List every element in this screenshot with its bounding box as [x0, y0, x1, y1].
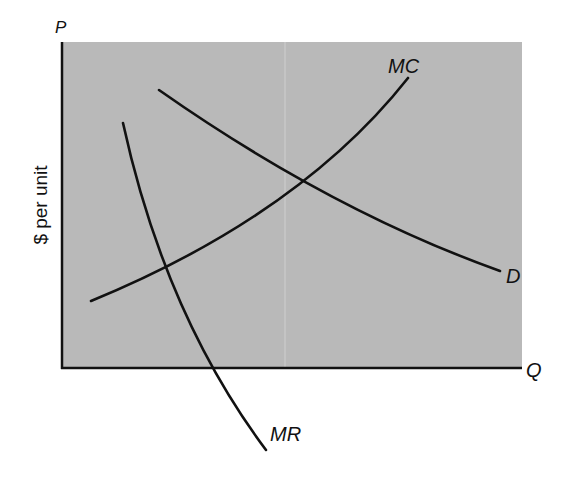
monopoly-chart: P Q $ per unit MC D MR	[0, 0, 570, 477]
mc-label: MC	[388, 55, 420, 77]
mr-label: MR	[270, 423, 301, 445]
q-axis-symbol: Q	[526, 359, 542, 381]
p-axis-symbol: P	[55, 18, 67, 37]
plot-background	[63, 42, 522, 368]
y-axis-label: $ per unit	[30, 165, 51, 245]
d-label: D	[506, 265, 520, 287]
